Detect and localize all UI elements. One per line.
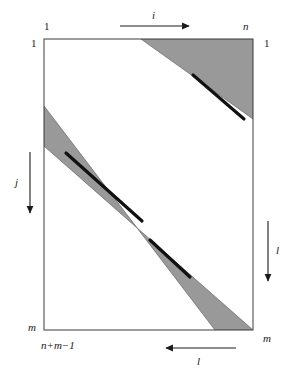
figure-container: 1 1 i n 1 j l m n+m−1 l m [0, 0, 296, 380]
label-bottom-left-diagonal-count: n+m−1 [41, 340, 75, 351]
label-bottom-left-index-m: m [28, 322, 36, 333]
diagram-canvas [0, 0, 296, 380]
label-top-right-index-n: n [243, 21, 249, 32]
label-top-axis-i: i [152, 10, 155, 21]
label-right-axis-l: l [276, 245, 279, 256]
label-right-top-index: 1 [264, 38, 270, 49]
label-bottom-right-index-m: m [263, 333, 271, 344]
label-bottom-axis-l: l [197, 356, 200, 367]
label-top-left-index: 1 [44, 21, 50, 32]
label-left-row-index: 1 [31, 38, 37, 49]
label-left-axis-j: j [15, 177, 18, 188]
